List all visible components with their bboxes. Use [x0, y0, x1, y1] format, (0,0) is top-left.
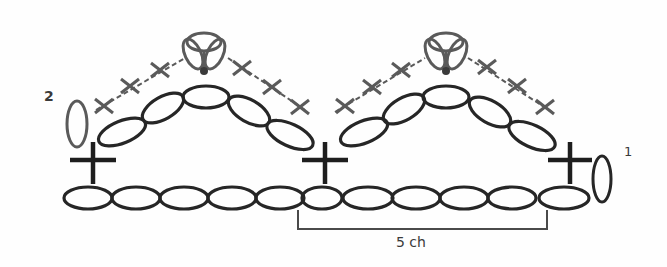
- turning-chain-row2: [67, 101, 87, 147]
- row-2-label: 2: [44, 88, 54, 104]
- chain-arch-right: [337, 86, 560, 157]
- crochet-diagram: 2 1 5 ch: [0, 0, 667, 267]
- cluster-picot-right: [421, 33, 471, 75]
- foundation-chain: [64, 187, 589, 209]
- turning-chain-row1: [593, 156, 611, 202]
- cluster-picot-left: [179, 33, 229, 75]
- row-1-label: 1: [624, 144, 632, 159]
- single-crochet-stitches: [70, 142, 592, 184]
- repeat-bracket: [298, 210, 547, 229]
- diagram-canvas: [0, 0, 667, 267]
- repeat-bracket-label: 5 ch: [396, 234, 426, 250]
